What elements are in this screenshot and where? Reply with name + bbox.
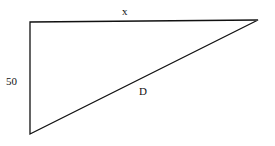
label-top-side-x: x (122, 6, 128, 17)
label-left-side-50: 50 (6, 76, 17, 87)
label-hypotenuse-d: D (139, 86, 147, 97)
triangle-diagram (0, 0, 275, 146)
right-triangle (30, 20, 258, 134)
